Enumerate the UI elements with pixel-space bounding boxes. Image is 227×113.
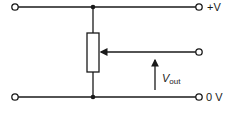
- top-junction: [91, 5, 96, 10]
- vout-label: Vout: [162, 72, 181, 86]
- supply-positive-label: +V: [207, 1, 221, 13]
- bottom-junction: [91, 95, 96, 100]
- ground-label: 0 V: [206, 91, 223, 103]
- wiper-terminal: [196, 49, 202, 55]
- bottom-left-terminal: [12, 94, 18, 100]
- vout-label-subscript: out: [169, 77, 181, 86]
- top-left-terminal: [12, 4, 18, 10]
- circuit-diagram: +V 0 V Vout: [0, 0, 227, 113]
- bottom-right-terminal: [196, 94, 202, 100]
- top-right-terminal: [196, 4, 202, 10]
- potentiometer: [87, 33, 99, 72]
